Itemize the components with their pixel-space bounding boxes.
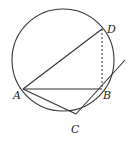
segment-AC xyxy=(23,89,76,114)
circle-o xyxy=(12,9,114,111)
segment-AD xyxy=(23,29,102,89)
diagram-svg: A B C D xyxy=(0,0,129,142)
tangent-line-CB xyxy=(76,60,125,114)
label-B: B xyxy=(102,89,111,102)
label-D: D xyxy=(106,23,116,36)
label-C: C xyxy=(71,123,80,136)
label-A: A xyxy=(12,89,21,102)
geometry-diagram: A B C D xyxy=(0,0,129,142)
